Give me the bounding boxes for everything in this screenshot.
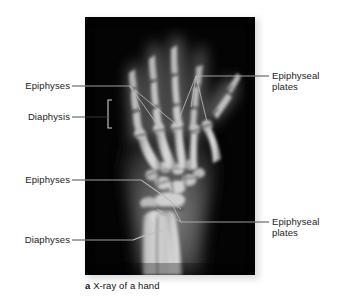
label-text-line2: plates: [272, 81, 319, 92]
label-text-line1: Epiphyseal: [272, 216, 319, 227]
label-text: Diaphysis: [28, 111, 70, 122]
label-epiphyseal-plates-lower: Epiphyseal plates: [272, 216, 319, 238]
label-diaphyses-lower: Diaphyses: [0, 234, 70, 245]
xray-image-content: [85, 17, 255, 275]
xray-photograph: [85, 17, 255, 275]
label-epiphyses-lower: Epiphyses: [0, 174, 70, 185]
label-text-line2: plates: [272, 227, 319, 238]
label-epiphyses-upper: Epiphyses: [0, 80, 70, 91]
xray-hand-figure: Epiphyses Diaphysis Epiphyses Diaphyses …: [0, 0, 341, 302]
label-diaphysis-upper: Diaphysis: [0, 111, 70, 122]
label-text-line1: Epiphyseal: [272, 70, 319, 81]
label-text: Diaphyses: [25, 234, 70, 245]
label-text: Epiphyses: [25, 80, 70, 91]
caption-text: X-ray of a hand: [90, 280, 159, 291]
figure-caption: a X-ray of a hand: [85, 280, 160, 291]
label-epiphyseal-plates-upper: Epiphyseal plates: [272, 70, 319, 92]
label-text: Epiphyses: [25, 174, 70, 185]
